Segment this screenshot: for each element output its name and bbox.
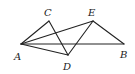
- segment-de: [68, 21, 93, 55]
- segment-eb: [93, 21, 124, 44]
- geometry-diagram: A C E D B: [0, 0, 135, 74]
- segment-ad: [21, 44, 68, 55]
- point-label-c: C: [44, 7, 52, 18]
- segment-cd: [49, 21, 68, 55]
- segments-group: [21, 21, 124, 55]
- segment-ae: [21, 21, 93, 44]
- point-label-d: D: [62, 61, 71, 72]
- point-label-b: B: [119, 49, 127, 60]
- labels-group: A C E D B: [13, 7, 127, 72]
- point-label-a: A: [13, 51, 21, 62]
- segment-ac: [21, 21, 49, 44]
- point-label-e: E: [87, 7, 96, 18]
